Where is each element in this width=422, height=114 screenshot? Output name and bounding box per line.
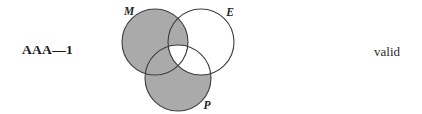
validity-label: valid [374,44,400,60]
venn-label-E: E [225,6,234,18]
venn-label-M: M [123,5,135,17]
syllogism-figure-row: AAA—1 [0,0,422,114]
syllogism-form-label: AAA—1 [22,42,73,58]
venn-diagram: M E P [112,0,252,114]
venn-diagram-svg: M E P [112,0,252,114]
venn-label-P: P [203,99,211,111]
